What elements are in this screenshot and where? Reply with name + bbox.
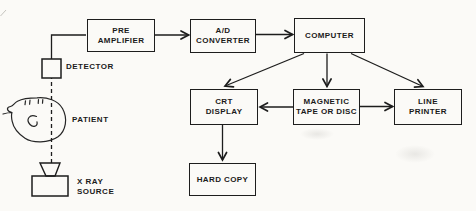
face-tick-1: [25, 101, 26, 105]
box-magnetic-tape-or-disc: MAGNETIC TAPE OR DISC: [293, 89, 360, 125]
box-line-printer: LINE PRINTER: [394, 89, 462, 125]
scan-smudge: [395, 145, 435, 163]
scan-smudge: [300, 128, 334, 140]
arrow-computer-to-crtdisplay: [225, 54, 304, 87]
arrow-computer-to-lineprinter: [351, 54, 423, 87]
xray-source-box: [32, 176, 68, 196]
xray-system-block-diagram: PRE AMPLIFIER A/D CONVERTER COMPUTER CRT…: [0, 0, 476, 211]
xray-source-label: X RAY SOURCE: [77, 177, 114, 196]
patient-head-sketch: [3, 98, 66, 142]
box-computer: COMPUTER: [294, 18, 365, 53]
xray-collimator-cone: [40, 163, 60, 176]
scan-artifact-mark: [1, 10, 7, 16]
box-crt-display: CRT DISPLAY: [190, 89, 258, 125]
patient-label: PATIENT: [72, 115, 109, 125]
detector-box: [42, 59, 61, 78]
box-ad-converter: A/D CONVERTER: [190, 19, 256, 53]
connector-detector-to-preamplifier: [52, 35, 87, 59]
head-outline: [3, 98, 66, 142]
box-pre-amplifier: PRE AMPLIFIER: [87, 19, 155, 52]
ear-curve: [28, 116, 37, 127]
box-hard-copy: HARD COPY: [189, 163, 256, 196]
detector-label: DETECTOR: [66, 62, 114, 72]
